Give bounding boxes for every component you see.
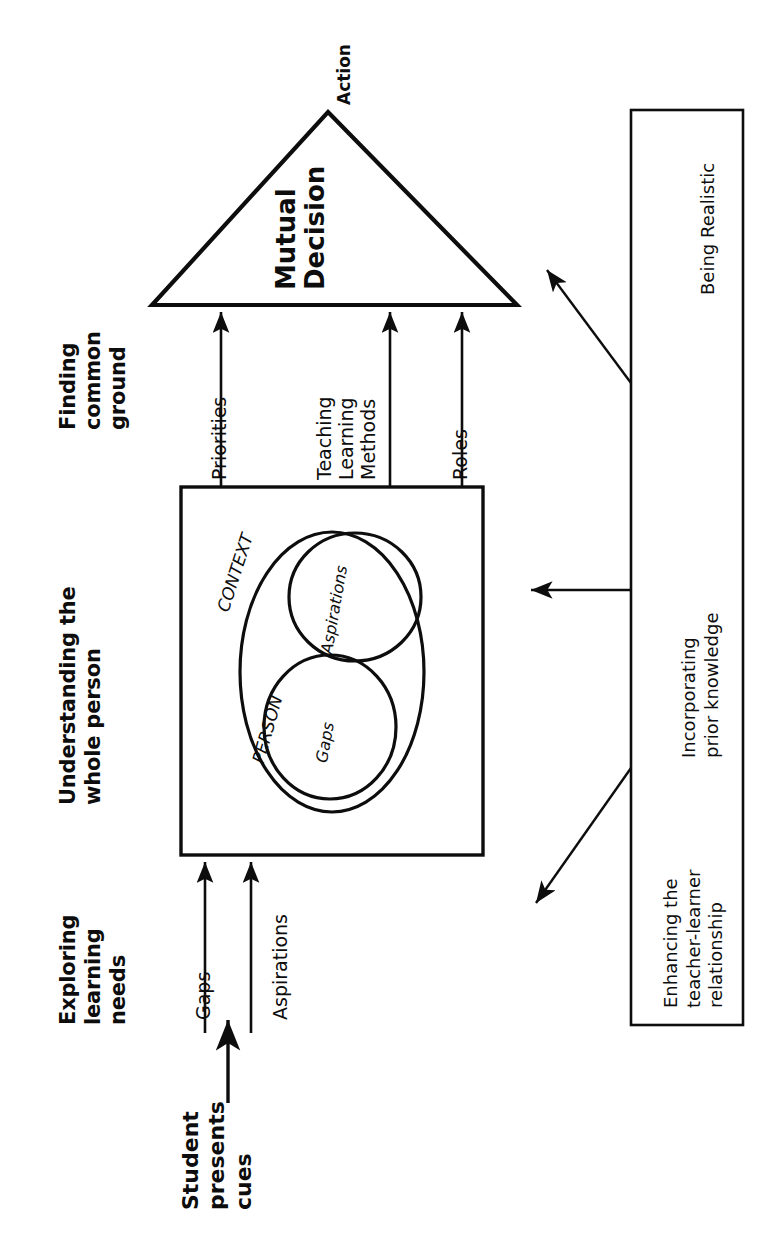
side-arrow-enhancing-relationship [536,768,631,903]
flow-label-teaching-learning-methods: Teaching Learning Methods [314,396,380,480]
input-label-aspirations: Aspirations [270,914,292,1020]
entry-label-student-presents-cues: Student presents cues [178,1101,257,1210]
stage-header-exploring-learning-needs: Exploring learning needs [56,915,130,1025]
flow-label-roles: Roles [450,429,472,480]
stage-header-understanding-whole-person: Understanding the whole person [56,586,106,805]
side-box-item-enhancing-teacher-learner-relationship: Enhancing the teacher-learner relationsh… [660,870,728,1008]
mutual-decision-triangle [152,112,517,305]
side-box-item-being-realistic: Being Realistic [697,163,720,295]
stage-header-finding-common-ground: Finding common ground [56,331,130,430]
diagram-canvas: Finding common ground Understanding the … [0,0,783,1235]
triangle-body-label-mutual-decision: Mutual Decision [272,166,329,290]
triangle-apex-label-action: Action [334,44,354,105]
input-label-gaps: Gaps [193,972,215,1020]
side-arrow-being-realistic [547,270,631,383]
diagram-vector-layer [0,0,783,1235]
side-box-item-incorporating-prior-knowledge: Incorporating prior knowledge [678,612,723,758]
aspirations-circle-shape [289,533,421,661]
flow-label-priorities: Priorities [209,397,231,480]
